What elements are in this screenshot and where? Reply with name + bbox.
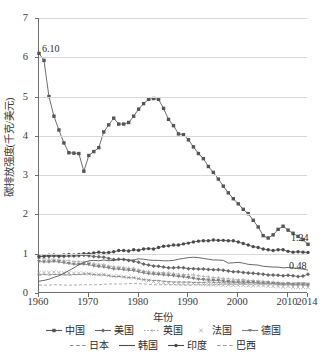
data-point-marker [52, 329, 55, 332]
data-point-marker [147, 247, 150, 250]
data-point-marker [246, 271, 250, 275]
legend-item-德国[interactable]: 德国 [241, 326, 281, 336]
data-point-marker [216, 268, 220, 272]
data-point-marker [266, 273, 270, 277]
data-point-marker [52, 270, 56, 274]
data-point-marker [177, 282, 181, 286]
data-point-marker [176, 265, 180, 269]
data-point-marker [296, 275, 300, 279]
data-point-marker [192, 145, 195, 148]
data-point-marker [281, 248, 284, 251]
plot-area [38, 18, 307, 293]
data-point-marker [187, 273, 190, 276]
data-point-marker [256, 225, 259, 228]
data-point-marker [241, 271, 245, 275]
data-point-marker [152, 264, 156, 268]
data-point-marker [186, 267, 190, 271]
data-point-marker [241, 283, 245, 287]
data-point-marker [271, 233, 274, 236]
legend-item-日本[interactable]: 日本 [69, 341, 109, 351]
legend-item-中国[interactable]: 中国 [45, 326, 85, 336]
legend-swatch-韩国 [118, 341, 136, 350]
data-point-marker [231, 270, 235, 274]
data-point-marker [222, 283, 226, 287]
legend-swatch-德国 [241, 326, 259, 335]
series-line [39, 258, 308, 284]
data-point-marker [47, 271, 51, 275]
data-point-marker [266, 236, 269, 239]
data-point-marker [162, 245, 165, 248]
data-point-marker [97, 255, 101, 259]
legend-swatch-日本 [69, 341, 87, 350]
data-point-marker [107, 256, 111, 260]
legend-label: 法国 [212, 326, 232, 336]
legend-label: 韩国 [138, 341, 158, 351]
legend-item-法国[interactable]: 法国 [192, 326, 232, 336]
data-point-marker [122, 249, 125, 252]
x-tick-label: 1960 [28, 296, 49, 307]
legend-item-巴西[interactable]: 巴西 [216, 341, 256, 351]
data-point-marker [232, 278, 235, 281]
gridline [39, 175, 307, 176]
x-tick-label: 1970 [77, 296, 98, 307]
gridline [39, 97, 307, 98]
legend-label: 巴西 [236, 341, 256, 351]
data-point-marker [201, 267, 205, 271]
legend-item-英国[interactable]: 英国 [143, 326, 183, 336]
legend-item-印度[interactable]: 印度 [167, 341, 207, 351]
data-point-marker [187, 241, 190, 244]
data-point-marker [137, 107, 140, 110]
data-point-marker [206, 267, 210, 271]
data-point-marker [42, 271, 46, 275]
data-point-marker [236, 270, 240, 274]
data-point-marker [187, 138, 190, 141]
data-point-marker [52, 115, 55, 118]
data-point-marker [87, 154, 90, 157]
legend-swatch-巴西 [216, 341, 234, 350]
data-point-marker [137, 260, 141, 264]
data-point-marker [256, 272, 260, 276]
data-point-marker [57, 128, 60, 131]
data-point-marker [237, 202, 240, 205]
data-point-marker [67, 259, 70, 262]
data-point-marker [271, 273, 275, 277]
data-label-0.48: 0.48 [289, 260, 307, 271]
data-point-marker [242, 242, 245, 245]
data-point-marker [247, 243, 250, 246]
legend-item-美国[interactable]: 美国 [94, 326, 134, 336]
data-point-marker [167, 244, 170, 247]
data-point-marker [281, 274, 285, 278]
data-point-marker [67, 151, 70, 154]
data-point-marker [232, 239, 235, 242]
x-tick-label: 2010 [277, 296, 298, 307]
series-lines [39, 18, 308, 293]
data-point-marker [127, 249, 130, 252]
data-point-marker [42, 254, 45, 257]
data-point-marker [217, 177, 220, 180]
data-point-marker [177, 243, 180, 246]
data-point-marker [202, 157, 205, 160]
legend-item-韩国[interactable]: 韩国 [118, 341, 158, 351]
legend-swatch-印度 [167, 341, 185, 350]
data-point-marker [117, 122, 120, 125]
data-point-marker [212, 276, 215, 279]
data-point-marker [147, 263, 151, 267]
data-point-marker [202, 275, 205, 278]
data-point-marker [47, 258, 50, 261]
legend-row-2: 日本韩国印度巴西 [0, 338, 325, 353]
series-中国 [37, 52, 309, 246]
data-point-marker [132, 248, 135, 251]
data-point-marker [147, 98, 150, 101]
data-point-marker [197, 152, 200, 155]
legend-swatch-美国 [94, 326, 112, 335]
legend-label: 印度 [187, 341, 207, 351]
data-point-marker [211, 268, 215, 272]
data-point-marker [97, 146, 100, 149]
data-point-marker [112, 258, 116, 262]
data-point-marker [72, 260, 75, 263]
data-point-marker [256, 246, 259, 249]
legend-swatch-中国 [45, 326, 63, 335]
data-point-marker [276, 273, 280, 277]
data-point-marker [202, 239, 205, 242]
carbon-intensity-chart: 01234567 1960197019801990200020102014 年份… [0, 0, 325, 359]
